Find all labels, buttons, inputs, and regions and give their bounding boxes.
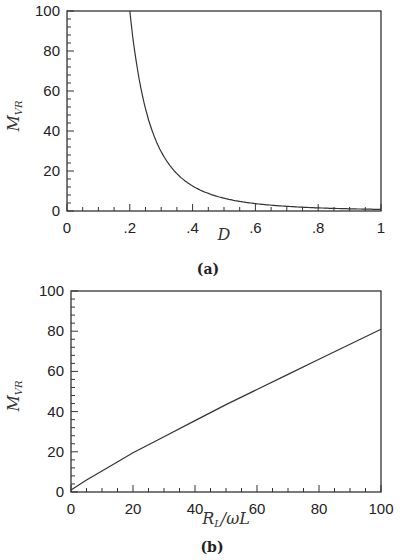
x-tick-label: 40 bbox=[187, 500, 204, 517]
x-tick-label: 0 bbox=[63, 219, 71, 236]
y-tick-label: 40 bbox=[47, 403, 64, 420]
y-tick-labels-a: 020406080100 bbox=[35, 2, 60, 219]
figure: 020406080100 0.2.4.6.81 D MVR (a) 020406… bbox=[0, 0, 402, 560]
y-axis-label-a: MVR bbox=[4, 100, 24, 133]
y-tick-label: 20 bbox=[43, 162, 60, 179]
y-tick-label: 40 bbox=[43, 122, 60, 139]
x-tick-label: .6 bbox=[249, 219, 262, 236]
y-tick-label: 80 bbox=[43, 42, 60, 59]
y-tick-labels-b: 020406080100 bbox=[39, 282, 64, 500]
y-tick-label: 80 bbox=[47, 322, 64, 339]
x-tick-label: 80 bbox=[311, 500, 328, 517]
data-line-b bbox=[71, 329, 381, 490]
chart-a: 020406080100 0.2.4.6.81 D MVR (a) bbox=[4, 2, 385, 277]
y-tick-label: 100 bbox=[39, 282, 64, 299]
y-tick-label: 100 bbox=[35, 2, 60, 19]
caption-b: (b) bbox=[200, 539, 223, 555]
svg-text:MVR: MVR bbox=[4, 100, 24, 133]
plot-frame-a bbox=[67, 11, 381, 211]
y-tick-label: 0 bbox=[56, 483, 64, 500]
chart-b: 020406080100 020406080100 RL/ωL MVR (b) bbox=[4, 282, 394, 555]
caption-a: (a) bbox=[197, 261, 219, 277]
x-tick-label: 1 bbox=[377, 219, 385, 236]
x-tick-label: 100 bbox=[368, 500, 393, 517]
y-axis-label-b: MVR bbox=[4, 380, 24, 413]
y-tick-label: 20 bbox=[47, 443, 64, 460]
x-tick-label: 60 bbox=[249, 500, 266, 517]
x-axis-label-a: D bbox=[217, 225, 231, 244]
x-tick-label: .4 bbox=[186, 219, 199, 236]
y-tick-label: 0 bbox=[52, 202, 60, 219]
x-tick-label: 0 bbox=[67, 500, 75, 517]
x-tick-label: .8 bbox=[312, 219, 325, 236]
svg-text:MVR: MVR bbox=[4, 380, 24, 413]
data-line-a bbox=[130, 11, 381, 209]
x-tick-label: .2 bbox=[124, 219, 137, 236]
axis-ticks-a bbox=[67, 11, 381, 211]
x-tick-label: 20 bbox=[125, 500, 142, 517]
y-tick-label: 60 bbox=[47, 362, 64, 379]
y-tick-label: 60 bbox=[43, 82, 60, 99]
x-axis-label-b: RL/ωL bbox=[201, 509, 250, 529]
